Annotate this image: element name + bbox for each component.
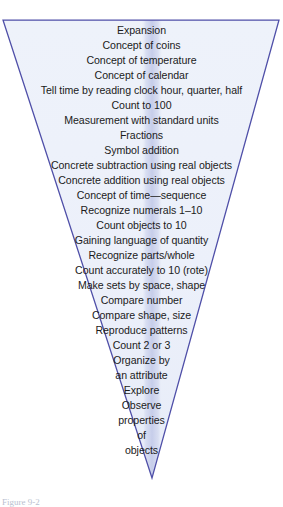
- concept-line: of: [0, 429, 283, 441]
- concept-line: Make sets by space, shape: [0, 279, 283, 291]
- concept-line: Concept of calendar: [0, 69, 283, 81]
- concept-list: Expansion Concept of coins Concept of te…: [0, 0, 283, 507]
- concept-line: Concept of coins: [0, 39, 283, 51]
- concept-line: Count objects to 10: [0, 219, 283, 231]
- concept-line: Reproduce patterns: [0, 324, 283, 336]
- concept-line: Gaining language of quantity: [0, 234, 283, 246]
- concept-line: Compare shape, size: [0, 309, 283, 321]
- concept-line: Count accurately to 10 (rote): [0, 264, 283, 276]
- concept-line: Fractions: [0, 129, 283, 141]
- concept-line: Observe: [0, 399, 283, 411]
- concept-line: objects: [0, 444, 283, 456]
- concept-line: Symbol addition: [0, 144, 283, 156]
- figure-caption: Figure 9-2: [2, 497, 281, 507]
- concept-line: an attribute: [0, 369, 283, 381]
- concept-line: Measurement with standard units: [0, 114, 283, 126]
- concept-line: Compare number: [0, 294, 283, 306]
- concept-line: Organize by: [0, 354, 283, 366]
- concept-line: Recognize parts/whole: [0, 249, 283, 261]
- concept-line: Recognize numerals 1–10: [0, 204, 283, 216]
- concept-line: Tell time by reading clock hour, quarter…: [0, 84, 283, 96]
- concept-line: Expansion: [0, 24, 283, 36]
- concept-line: Explore: [0, 384, 283, 396]
- concept-line: Count 2 or 3: [0, 339, 283, 351]
- concept-line: Concept of time—sequence: [0, 189, 283, 201]
- concept-line: properties: [0, 414, 283, 426]
- concept-line: Concrete subtraction using real objects: [0, 159, 283, 171]
- concept-line: Concept of temperature: [0, 54, 283, 66]
- concept-line: Count to 100: [0, 99, 283, 111]
- figure-canvas: Expansion Concept of coins Concept of te…: [0, 0, 283, 507]
- concept-line: Concrete addition using real objects: [0, 174, 283, 186]
